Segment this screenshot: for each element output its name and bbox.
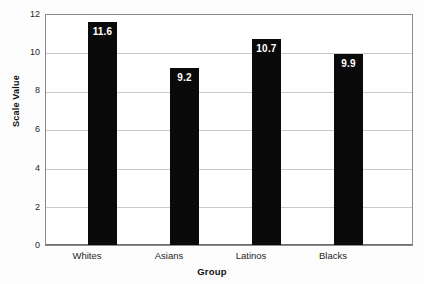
y-tick-label-10: 10 (8, 48, 40, 57)
y-tick-label-12: 12 (8, 10, 40, 19)
bar-blacks[interactable]: 9.9 (334, 54, 363, 245)
x-axis-title: Group (0, 266, 424, 277)
bar-value-latinos: 10.7 (252, 43, 281, 54)
x-tick-label-whites: Whites (57, 251, 117, 261)
bar-asians[interactable]: 9.2 (170, 68, 199, 245)
y-tick-label-4: 4 (8, 164, 40, 173)
bar-value-blacks: 9.9 (334, 58, 363, 69)
x-tick-label-asians: Asians (139, 251, 199, 261)
bar-value-asians: 9.2 (170, 72, 199, 83)
y-tick-label-8: 8 (8, 86, 40, 95)
bar-chart-screenshot: Scale Value 12 10 8 6 4 2 0 11.6 9.2 10.… (0, 0, 424, 284)
x-tick-label-blacks: Blacks (303, 251, 363, 261)
plot-area: 11.6 9.2 10.7 9.9 (45, 14, 413, 246)
x-tick-label-latinos: Latinos (221, 251, 281, 261)
y-tick-label-0: 0 (8, 241, 40, 250)
bar-whites[interactable]: 11.6 (88, 22, 117, 245)
bar-latinos[interactable]: 10.7 (252, 39, 281, 245)
bar-value-whites: 11.6 (88, 26, 117, 37)
y-tick-label-2: 2 (8, 203, 40, 212)
y-tick-label-6: 6 (8, 125, 40, 134)
